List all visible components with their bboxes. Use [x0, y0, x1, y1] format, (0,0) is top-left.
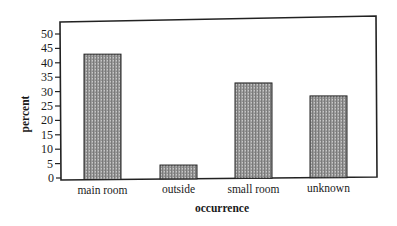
bar-chart: 05101520253035404550 main roomoutsidesma… — [0, 0, 397, 226]
x-category-label: main room — [77, 184, 127, 196]
y-tick-label: 15 — [41, 128, 53, 142]
bar-unknown — [310, 96, 347, 178]
y-tick-label: 40 — [41, 56, 53, 70]
bars — [84, 54, 347, 179]
x-axis-labels: main roomoutsidesmall roomunknown — [77, 182, 350, 196]
bar-main-room — [84, 54, 121, 179]
y-tick-label: 30 — [41, 85, 53, 99]
y-tick-label: 10 — [41, 142, 53, 156]
y-tick-label: 35 — [41, 70, 53, 84]
y-axis-title: percent — [19, 95, 32, 132]
y-tick-label: 25 — [41, 99, 53, 113]
x-axis-title: occurrence — [195, 202, 249, 214]
y-tick-label: 5 — [47, 157, 53, 171]
y-tick-label: 45 — [41, 41, 53, 55]
y-tick-label: 0 — [48, 171, 54, 185]
x-category-label: unknown — [307, 182, 350, 194]
y-tick-label: 20 — [41, 113, 53, 127]
bar-outside — [160, 165, 197, 179]
y-axis: 05101520253035404550 — [41, 27, 61, 185]
y-tick-label: 50 — [41, 27, 53, 41]
x-category-label: outside — [162, 183, 195, 195]
x-category-label: small room — [227, 183, 279, 195]
bar-small-room — [235, 83, 272, 178]
